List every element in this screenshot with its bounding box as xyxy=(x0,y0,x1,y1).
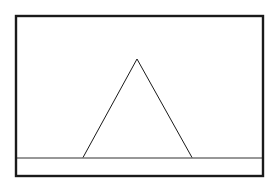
frame-rectangle xyxy=(16,16,263,176)
diagram-canvas xyxy=(0,0,278,185)
diagram-svg xyxy=(0,0,278,185)
triangle-shape xyxy=(83,59,192,158)
